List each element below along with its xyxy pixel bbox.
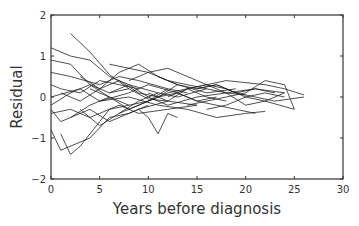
residual-trajectories-chart: 051015202530 210−1−2 Years before diagno…	[0, 0, 359, 226]
x-axis-label: Years before diagnosis	[112, 200, 281, 218]
trajectory-line	[139, 109, 178, 134]
y-tick-label: 1	[40, 51, 46, 62]
y-tick-label: −1	[31, 133, 46, 144]
x-tick-label: 15	[191, 184, 204, 195]
y-axis-ticks: 210−1−2	[31, 10, 343, 185]
x-tick-label: 20	[239, 184, 252, 195]
x-tick-label: 25	[288, 184, 301, 195]
x-axis-ticks: 051015202530	[48, 15, 350, 195]
trajectory-lines	[51, 34, 304, 155]
trajectory-line	[51, 48, 158, 93]
y-tick-label: −2	[31, 174, 46, 185]
y-axis-label: Residual	[8, 65, 26, 128]
trajectory-line	[148, 85, 294, 110]
trajectory-line	[51, 60, 129, 93]
x-tick-label: 30	[337, 184, 350, 195]
y-tick-label: 2	[40, 10, 46, 21]
y-tick-label: 0	[40, 92, 46, 103]
x-tick-label: 0	[48, 184, 54, 195]
x-tick-label: 5	[96, 184, 102, 195]
x-tick-label: 10	[142, 184, 155, 195]
